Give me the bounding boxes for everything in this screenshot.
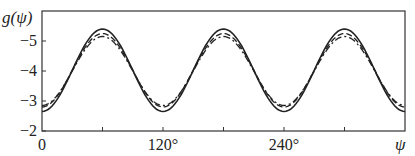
x-axis-label: ψ <box>395 135 406 154</box>
y-tick-label: −4 <box>20 62 37 79</box>
axis-ticks <box>42 41 345 131</box>
curve-dash-dot <box>42 37 405 106</box>
y-tick-label: −3 <box>20 92 37 109</box>
curve-dashed <box>42 34 405 108</box>
y-axis-label: g(ψ) <box>2 8 33 27</box>
y-tick-label: −2 <box>20 122 37 139</box>
y-tick-label: −5 <box>20 32 37 49</box>
x-tick-label: 240° <box>269 136 299 153</box>
x-tick-label: 120° <box>148 136 178 153</box>
curve-solid <box>42 29 405 112</box>
line-chart: g(ψ) ψ −5 −4 −3 −2 0 120° 240° <box>0 0 415 156</box>
x-tick-label: 0 <box>38 136 46 153</box>
curves <box>42 29 405 112</box>
